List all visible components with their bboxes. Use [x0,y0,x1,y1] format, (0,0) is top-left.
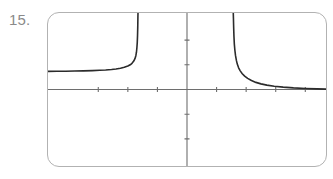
curve-left-branch [48,13,138,71]
axes-group [48,13,326,166]
curve-right-branch [233,13,326,89]
problem-number-label: 15. [9,11,30,29]
function-plot [48,13,326,166]
graphing-calculator-screen [47,12,327,167]
exercise-item: 15. [0,0,333,179]
